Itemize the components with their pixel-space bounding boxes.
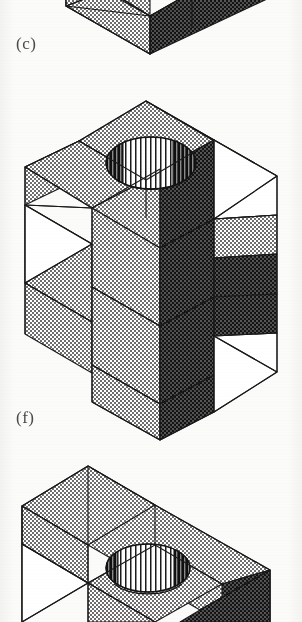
fig-f-face-right-shelf <box>214 215 277 258</box>
figure-page: (c) (f) <box>0 0 302 622</box>
fig-f-face-right-slot-dark-2 <box>214 294 277 336</box>
fig-f-face-right-slot-dark <box>214 254 277 297</box>
isometric-figures-canvas <box>0 0 302 622</box>
figure-c-caption: (c) <box>16 34 36 54</box>
fig-f-hole-wall-lit <box>123 137 173 189</box>
figure-f-caption: (f) <box>16 408 34 428</box>
